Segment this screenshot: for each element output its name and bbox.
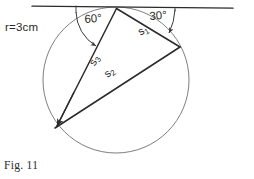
angle-label-60: 60° — [84, 13, 102, 26]
figure-caption: Fig. 11 — [4, 159, 38, 171]
figure-container: r=3cm 60° 30° s1 s3 s2 Fig. 11 — [0, 0, 254, 179]
circle-outline — [43, 7, 189, 153]
radius-label: r=3cm — [5, 22, 38, 34]
angle-arc-30 — [169, 10, 175, 34]
tangent-line — [32, 6, 233, 8]
segment-s2 — [55, 47, 180, 128]
angle-label-30: 30° — [149, 10, 167, 23]
